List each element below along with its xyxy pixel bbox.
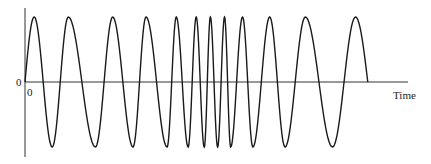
waveform-diagram: 0 0 Time bbox=[0, 0, 431, 164]
x-origin-label: 0 bbox=[27, 86, 33, 98]
x-axis-label: Time bbox=[393, 89, 416, 101]
y-origin-label: 0 bbox=[16, 76, 22, 88]
